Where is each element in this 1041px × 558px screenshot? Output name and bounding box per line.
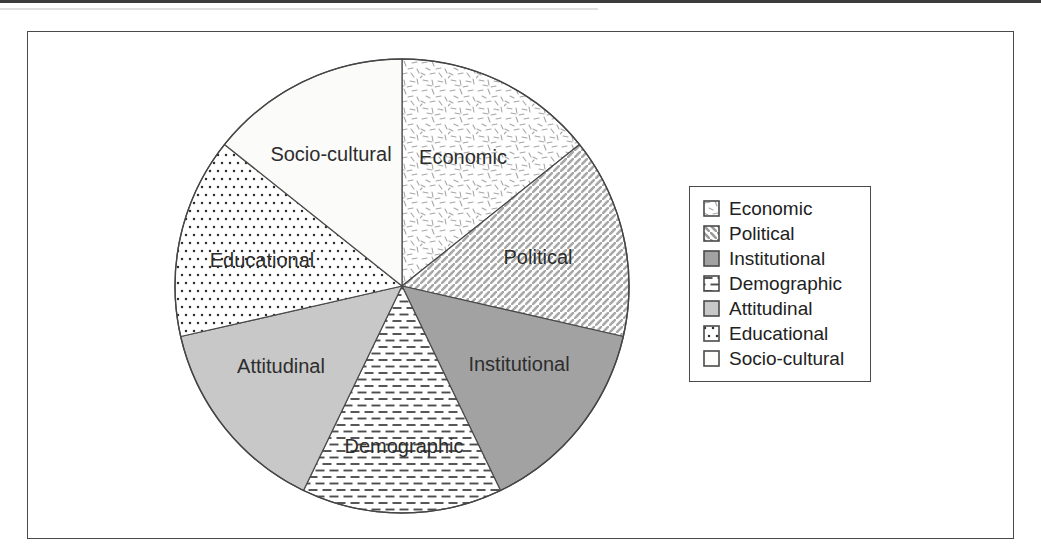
legend-item: Demographic — [703, 271, 870, 296]
legend-swatch-demographic — [703, 275, 720, 292]
legend-label: Institutional — [729, 248, 825, 270]
pie-label-demographic: Demographic — [345, 435, 464, 457]
chart-frame: Economic Political Institutional Demogra… — [27, 31, 1014, 539]
legend-swatch-attitudinal — [703, 300, 720, 317]
page-top-rule-faint — [0, 8, 598, 10]
legend-item: Economic — [703, 196, 870, 221]
legend-item: Political — [703, 221, 870, 246]
legend-item: Attitudinal — [703, 296, 870, 321]
legend-label: Demographic — [729, 273, 842, 295]
pie-label-educational: Educational — [210, 249, 315, 271]
legend-label: Political — [729, 223, 794, 245]
pie-label-political: Political — [504, 246, 573, 268]
legend-swatch-political — [703, 225, 720, 242]
legend-item: Educational — [703, 321, 870, 346]
pie-label-socio-cultural: Socio-cultural — [270, 143, 391, 165]
legend-swatch-economic — [703, 200, 720, 217]
legend-label: Educational — [729, 323, 828, 345]
legend-box: Economic Political Institutional Demogra… — [689, 186, 871, 382]
legend-label: Socio-cultural — [729, 348, 844, 370]
legend-swatch-institutional — [703, 250, 720, 267]
legend-swatch-socio-cultural — [703, 350, 720, 367]
legend-label: Attitudinal — [729, 298, 812, 320]
legend-item: Institutional — [703, 246, 870, 271]
legend-item: Socio-cultural — [703, 346, 870, 371]
pie-label-institutional: Institutional — [468, 353, 569, 375]
legend-label: Economic — [729, 198, 812, 220]
pie-label-attitudinal: Attitudinal — [237, 355, 325, 377]
page-top-rule — [0, 0, 1041, 3]
pie-label-economic: Economic — [419, 146, 507, 168]
legend-swatch-educational — [703, 325, 720, 342]
